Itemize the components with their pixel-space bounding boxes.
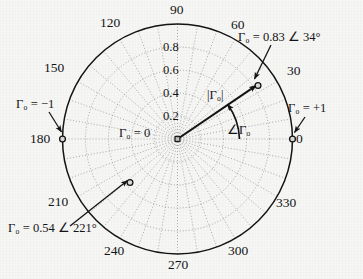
- angle-label-150: 150: [44, 61, 64, 75]
- angle-label-120: 120: [100, 16, 120, 30]
- angle-label-30: 30: [287, 64, 301, 78]
- radial-label-0-8: 0.8: [163, 41, 179, 54]
- angle-label-180: 180: [30, 132, 50, 146]
- annotation-angle: ∠Γ₀: [227, 124, 251, 137]
- annotation-gamma-minus-1: Γ₀ = −1: [16, 98, 54, 111]
- point-marker-gamma-plus-1[interactable]: [290, 136, 296, 142]
- angle-label-0: 0: [296, 132, 303, 146]
- angle-label-90: 90: [170, 3, 184, 17]
- leader-line-left: [49, 112, 62, 132]
- figure-canvas: 0 30 60 90 120 150 180 210 240 270 300 3…: [0, 0, 363, 279]
- angle-label-240: 240: [104, 244, 124, 258]
- radial-label-0-6: 0.6: [163, 64, 179, 77]
- angle-label-300: 300: [228, 244, 248, 258]
- annotation-gamma-zero: Γ₀ = 0: [119, 127, 150, 140]
- annotation-gamma-083-34: Γ₀ = 0.83 ∠ 34°: [238, 31, 321, 44]
- annotation-gamma-plus-1: Γ₀ = +1: [288, 102, 326, 115]
- annotation-gamma-054-221: Γ₀ = 0.54 ∠ 221°: [8, 222, 97, 235]
- point-marker-gamma-minus-1[interactable]: [60, 136, 66, 142]
- radial-label-0-4: 0.4: [163, 87, 179, 100]
- angle-label-270: 270: [168, 258, 188, 272]
- radial-label-0-2: 0.2: [163, 110, 179, 123]
- angle-label-210: 210: [48, 195, 68, 209]
- annotation-magnitude: |Γ₀|: [207, 89, 224, 102]
- leader-line-top-right: [255, 45, 272, 79]
- angle-label-330: 330: [276, 196, 296, 210]
- point-marker-gamma-054-221[interactable]: [127, 180, 133, 186]
- point-marker-gamma-zero[interactable]: [175, 137, 180, 142]
- point-marker-gamma-083-34[interactable]: [255, 83, 261, 89]
